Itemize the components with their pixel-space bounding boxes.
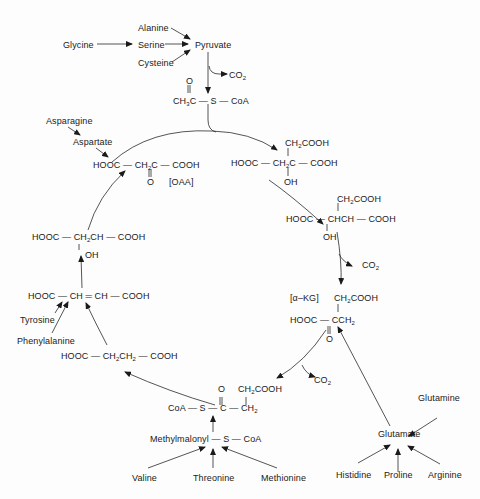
succinyl-oxygen: O: [218, 384, 225, 394]
oaa-label: [OAA]: [169, 177, 194, 187]
glycine-label: Glycine: [63, 40, 94, 50]
cysteine-label: Cysteine: [138, 58, 174, 68]
glutamate-label: Glutamate: [378, 429, 420, 439]
arginine-label: Arginine: [428, 470, 462, 480]
akg-oxygen: O: [326, 334, 333, 344]
fumarate: HOOC — CH ═ CH — COOH: [28, 291, 149, 301]
citrate: HOOC — CH2C — COOH: [231, 158, 338, 168]
malate-oh: OH: [85, 250, 99, 260]
co2-label-3: CO2: [314, 375, 331, 385]
tyrosine-label: Tyrosine: [20, 315, 55, 325]
oxaloacetate: HOOC — CH2C — COOH: [93, 160, 200, 170]
threonine-label: Threonine: [193, 473, 234, 483]
succinyl-coa: CoA — S — C — CH2: [168, 403, 258, 413]
succinate: HOOC — CH2CH2 — COOH: [61, 351, 178, 361]
proline-label: Proline: [384, 470, 413, 480]
asparagine-label: Asparagine: [46, 116, 93, 126]
akg-ch2cooh: CH2COOH: [334, 293, 378, 303]
pyruvate-label: Pyruvate: [195, 40, 231, 50]
co2-label-1: CO2: [229, 70, 246, 80]
acetyl-oxygen: O: [186, 76, 193, 86]
aspartate-label: Aspartate: [73, 137, 112, 147]
alpha-ketoglutarate: HOOC — CCH2: [290, 315, 355, 325]
citrate-oh: OH: [284, 177, 298, 187]
isocitrate-oh: OH: [323, 232, 337, 242]
methionine-label: Methionine: [261, 473, 306, 483]
akg-label: [α–KG]: [290, 293, 319, 303]
isocitrate: HOOC — CHCH — COOH: [286, 214, 396, 224]
alanine-label: Alanine: [138, 23, 169, 33]
methylmalonyl-coa: Methylmalonyl — S — CoA: [150, 434, 261, 444]
diagram-canvas: Alanine Glycine Serine Cysteine Pyruvate…: [0, 0, 480, 499]
histidine-label: Histidine: [336, 470, 371, 480]
co2-label-2: CO2: [362, 260, 379, 270]
malate: HOOC — CH2CH — COOH: [32, 232, 145, 242]
isocitrate-ch2cooh: CH2COOH: [337, 194, 381, 204]
glutamine-label: Glutamine: [418, 393, 460, 403]
acetyl-coa: CH3C — S — CoA: [173, 96, 249, 106]
succinyl-ch2cooh: CH2COOH: [238, 384, 282, 394]
oaa-oxygen: O: [147, 177, 154, 187]
valine-label: Valine: [132, 473, 157, 483]
serine-label: Serine: [138, 40, 165, 50]
phenylalanine-label: Phenylalanine: [17, 336, 75, 346]
citrate-ch2cooh: CH2COOH: [285, 138, 329, 148]
